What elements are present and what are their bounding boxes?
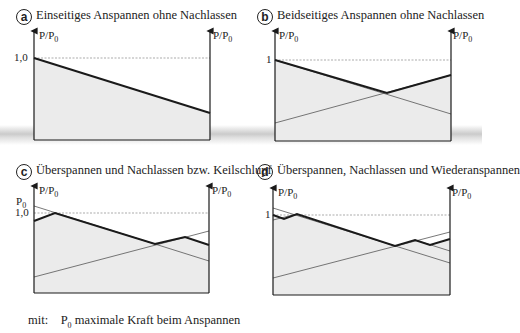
footnote: mit: P0 maximale Kraft beim Anspannen [28,313,240,330]
panel-a-tick-1: 1,0 [14,51,28,63]
panel-c-right-axis-label: P/P0 [212,184,231,199]
panel-a-chart [34,31,210,140]
badge-a: a [16,9,32,25]
panel-c-chart [34,186,209,293]
panel-a-right-axis-label: P/P0 [213,29,232,44]
panel-b-left-axis-label: P/P0 [279,29,298,44]
panel-c-left-axis-label: P/P0 [39,184,58,199]
panel-b-title: bBeidseitiges Anspannen ohne Nachlassen [257,8,484,25]
panel-b-chart [275,31,451,141]
panel-b-tick-1: 1 [266,53,272,65]
badge-d: d [257,164,273,180]
panel-d-left-axis-label: P/P0 [278,186,297,201]
badge-c: c [16,164,32,180]
badge-b: b [257,9,273,25]
panel-a-title: aEinseitiges Anspannen ohne Nachlassen [16,8,237,25]
panel-c-tick-1: 1,0 [15,206,29,218]
panel-d-tick-1: 1 [265,208,271,220]
panel-c-title: cÜberspannen und Nachlassen bzw. Keilsch… [16,163,272,180]
panel-b-right-axis-label: P/P0 [453,29,472,44]
panel-d-chart [273,188,450,295]
panel-d-right-axis-label: P/P0 [452,186,471,201]
panel-a-left-axis-label: P/P0 [39,29,58,44]
panel-d-title: dÜberspannen, Nachlassen und Wiederanspa… [257,163,520,180]
